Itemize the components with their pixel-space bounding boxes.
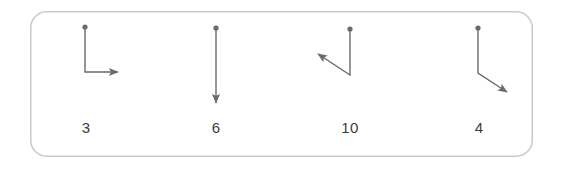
figure-label: 6	[212, 119, 221, 136]
diagram-canvas: 36104	[0, 0, 564, 169]
figure-label: 3	[82, 119, 91, 136]
start-point-dot	[347, 26, 352, 31]
start-point-dot	[475, 25, 480, 30]
figure-label: 4	[475, 119, 484, 136]
start-point-dot	[82, 24, 87, 29]
start-point-dot	[213, 25, 218, 30]
vector-diagram-svg	[0, 0, 564, 169]
panel-border	[31, 12, 533, 157]
figure-label: 10	[341, 119, 359, 136]
